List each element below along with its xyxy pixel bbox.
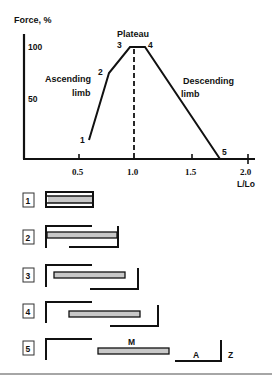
z-line-left-with-actin (46, 339, 92, 360)
ascending-limb-label-2: limb (72, 88, 91, 98)
ascending-limb-label-1: Ascending (45, 74, 91, 84)
row-number-3: 3 (26, 271, 31, 281)
point-label-3: 3 (117, 40, 122, 50)
sarcomere-row-4: 4 (23, 302, 158, 326)
row-number-4: 4 (26, 307, 31, 317)
x-tick-label-20: 2.0 (240, 167, 252, 177)
force-length-diagram: Force, % 100 50 0.5 1.0 1.5 2.0 L/Lo 1 2… (0, 0, 272, 377)
x-tick-label-05: 0.5 (72, 167, 84, 177)
y-axis-label: Force, % (14, 15, 52, 25)
row-number-1: 1 (26, 196, 31, 206)
myosin-label: M (128, 337, 135, 347)
sarcomere-row-1: 1 (23, 191, 93, 208)
y-tick-50: 50 (28, 94, 38, 104)
row-number-2: 2 (26, 233, 31, 243)
myosin-filament (69, 311, 140, 317)
x-tick-label-15: 1.5 (185, 167, 197, 177)
row-number-5: 5 (26, 344, 31, 354)
z-line-label: Z (228, 350, 233, 360)
sarcomere-row-3: 3 (23, 265, 138, 289)
point-label-2: 2 (98, 67, 103, 77)
plateau-label: Plateau (117, 29, 149, 39)
x-axis-label: L/Lo (237, 179, 255, 189)
myosin-filament (48, 196, 92, 203)
force-length-curve (89, 47, 220, 159)
myosin-filament (47, 232, 117, 238)
myosin-filament (54, 272, 125, 278)
y-tick-100: 100 (28, 42, 42, 52)
sarcomere-row-2: 2 (23, 225, 118, 248)
point-label-4: 4 (148, 40, 153, 50)
descending-limb-label-2: limb (181, 89, 200, 99)
myosin-filament (98, 348, 169, 354)
actin-label: A (193, 350, 199, 360)
point-label-1: 1 (80, 135, 85, 145)
sarcomere-row-5: 5 M A Z (23, 337, 233, 361)
point-label-5: 5 (222, 147, 227, 157)
x-tick-label-10: 1.0 (127, 167, 139, 177)
descending-limb-label-1: Descending (183, 76, 234, 86)
